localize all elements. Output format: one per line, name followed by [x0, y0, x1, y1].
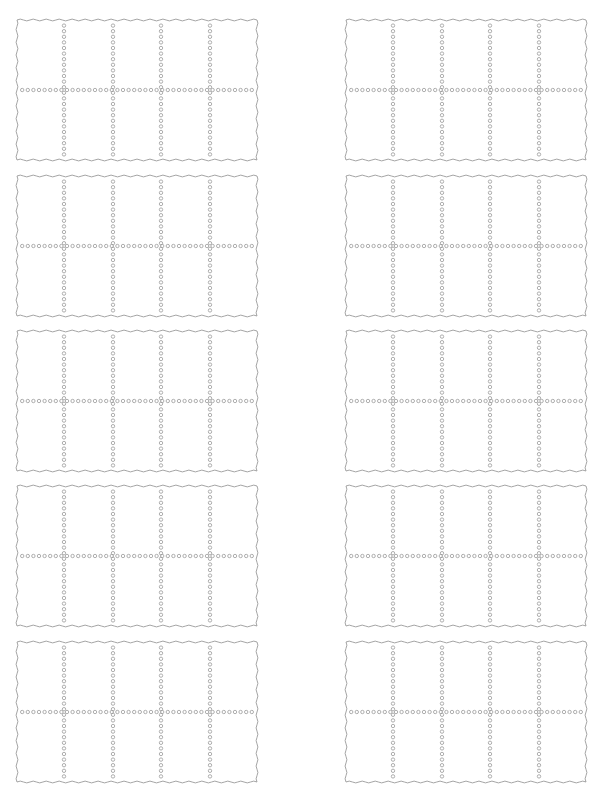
- card-outline: [16, 641, 258, 783]
- cut-card: [345, 330, 587, 472]
- wavy-border: [346, 781, 586, 783]
- cut-card: [16, 19, 258, 161]
- wavy-border: [346, 159, 586, 161]
- wavy-border: [17, 315, 257, 317]
- wavy-border: [346, 625, 586, 627]
- template-sheet: [0, 0, 604, 789]
- card-outline: [16, 330, 258, 472]
- wavy-border: [345, 20, 347, 160]
- card-outline: [345, 330, 587, 472]
- dotted-dividers: [350, 490, 583, 622]
- wavy-border: [16, 642, 18, 782]
- dotted-dividers: [350, 335, 583, 467]
- dotted-dividers: [21, 24, 254, 156]
- cut-card: [16, 175, 258, 317]
- dotted-dividers: [350, 24, 583, 156]
- dotted-dividers: [350, 646, 583, 778]
- cut-card: [16, 485, 258, 627]
- wavy-border: [17, 159, 257, 161]
- cut-card: [16, 641, 258, 783]
- wavy-border: [17, 625, 257, 627]
- card-outline: [16, 485, 258, 627]
- cut-card: [345, 175, 587, 317]
- card-outline: [345, 485, 587, 627]
- wavy-border: [345, 331, 347, 471]
- dotted-dividers: [21, 335, 254, 467]
- wavy-border: [345, 176, 347, 316]
- wavy-border: [346, 470, 586, 472]
- cut-card: [16, 330, 258, 472]
- wavy-border: [345, 642, 347, 782]
- wavy-border: [16, 486, 18, 626]
- card-outline: [16, 175, 258, 317]
- dotted-dividers: [350, 180, 583, 312]
- card-outline: [345, 641, 587, 783]
- dotted-dividers: [21, 490, 254, 622]
- dotted-dividers: [21, 646, 254, 778]
- card-outline: [345, 175, 587, 317]
- wavy-border: [16, 176, 18, 316]
- card-outline: [345, 19, 587, 161]
- cut-card: [345, 641, 587, 783]
- wavy-border: [346, 315, 586, 317]
- cut-card: [345, 485, 587, 627]
- card-outline: [16, 19, 258, 161]
- dotted-dividers: [21, 180, 254, 312]
- wavy-border: [17, 781, 257, 783]
- wavy-border: [16, 20, 18, 160]
- cut-card: [345, 19, 587, 161]
- wavy-border: [16, 331, 18, 471]
- wavy-border: [345, 486, 347, 626]
- wavy-border: [17, 470, 257, 472]
